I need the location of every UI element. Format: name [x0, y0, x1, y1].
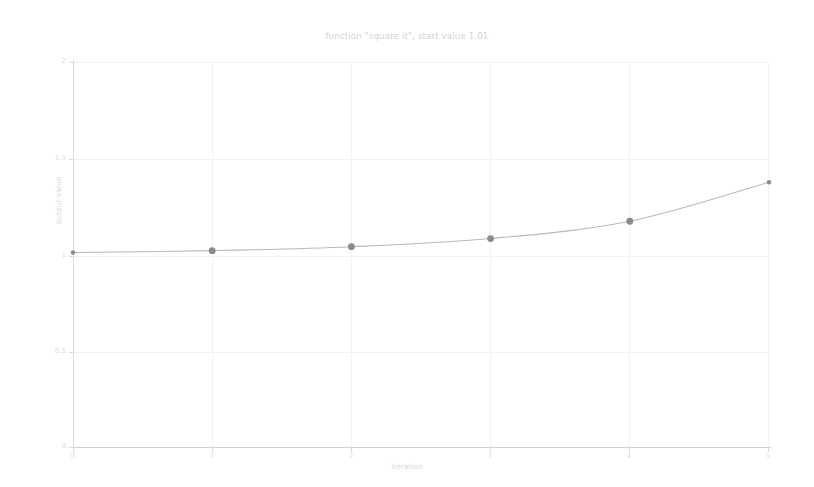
data-point — [487, 235, 494, 242]
series-line — [73, 182, 769, 252]
data-point — [348, 243, 355, 250]
series-plot — [0, 0, 814, 487]
data-point — [767, 180, 771, 184]
data-point — [209, 247, 216, 254]
chart-screenshot: function "square it", start value 1.01 2… — [0, 0, 814, 487]
data-point — [71, 250, 75, 254]
data-point — [626, 218, 633, 225]
